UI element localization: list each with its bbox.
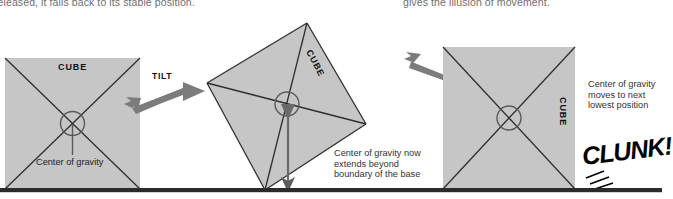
top-text-left: released, it falls back to its stable po… [0,0,195,8]
panel-stable-cube [5,58,140,189]
cog-label-stable: Center of gravity [36,157,103,167]
tilt-action-label: TILT [152,71,172,81]
cube-label-fallen: CUBE [558,97,568,126]
ground-line [0,188,662,192]
caption-tilted: Center of gravity now extends beyond bou… [334,148,421,180]
caption-fallen: Center of gravity moves to next lowest p… [588,79,655,111]
cube-label-stable: CUBE [58,62,87,72]
impact-lines-icon [586,171,613,189]
panel-fallen-cube [443,47,575,189]
top-text-right: gives the illusion of movement. [403,0,550,8]
